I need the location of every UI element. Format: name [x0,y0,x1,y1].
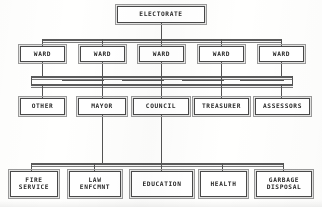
connector-assessors-in [281,84,282,98]
connector-fire-service-drop [31,163,32,171]
connector-mesh-cross-4 [240,80,284,81]
node-law-enforcement[interactable]: LAW ENFCMNT [69,171,121,197]
node-law-enforcement-label: LAW ENFCMNT [80,177,110,190]
connector-mesh-cross-1 [62,80,104,81]
node-mayor-label: MAYOR [91,103,113,110]
connector-mesh-tie-right [292,76,293,85]
connector-mesh-tie-left [31,76,32,85]
connector-ward-bus [42,39,282,41]
node-ward-1-label: WARD [34,51,51,58]
node-ward-2-label: WARD [94,51,111,58]
node-electorate[interactable]: ELECTORATE [117,6,205,23]
connector-health-drop [222,163,223,171]
node-assessors-label: ASSESSORS [263,103,302,110]
node-education-label: EDUCATION [143,181,182,188]
connector-council-in [161,84,162,98]
node-ward-5[interactable]: WARD [259,46,304,62]
org-chart-canvas: ELECTORATE WARD WARD WARD WARD WARD [0,0,322,207]
connector-ward-1-out [42,62,43,76]
connector-mesh-rail-upper [31,76,293,78]
node-other-label: OTHER [32,103,54,110]
node-ward-1[interactable]: WARD [20,46,65,62]
connector-mesh-rail-lower [31,84,293,86]
connector-mayor-drop [102,115,103,163]
node-ward-4-label: WARD [213,51,230,58]
connector-electorate-stem [161,23,162,39]
node-ward-4[interactable]: WARD [199,46,244,62]
connector-ward-5-out [281,62,282,76]
node-fire-service[interactable]: FIRE SERVICE [10,171,58,197]
connector-ward-4-drop [221,39,222,46]
connector-law-enforcement-drop [94,163,95,171]
connector-ward-3-out [161,62,162,76]
connector-ward-3-drop [161,39,162,46]
node-garbage-disposal-label: GARBAGE DISPOSAL [267,177,302,190]
connector-garbage-disposal-drop [283,163,284,171]
node-fire-service-label: FIRE SERVICE [19,177,49,190]
node-ward-3-label: WARD [153,51,170,58]
node-health[interactable]: HEALTH [200,171,247,197]
node-assessors[interactable]: ASSESSORS [255,98,310,115]
node-education[interactable]: EDUCATION [131,171,193,197]
connector-mayor-in [102,84,103,98]
connector-ward-5-drop [281,39,282,46]
node-garbage-disposal[interactable]: GARBAGE DISPOSAL [256,171,312,197]
node-mayor[interactable]: MAYOR [78,98,126,115]
connector-ward-2-out [102,62,103,76]
connector-education-drop [161,163,162,171]
node-ward-2[interactable]: WARD [80,46,125,62]
node-electorate-label: ELECTORATE [139,11,182,18]
node-treasurer[interactable]: TREASURER [194,98,249,115]
connector-treasurer-in [221,84,222,98]
connector-ward-4-out [221,62,222,76]
connector-ward-2-drop [102,39,103,46]
node-health-label: HEALTH [211,181,237,188]
node-other[interactable]: OTHER [20,98,65,115]
connector-mesh-cross-3 [182,80,224,81]
node-ward-3[interactable]: WARD [139,46,184,62]
node-council-label: COUNCIL [146,103,176,110]
connector-department-bus [31,163,283,165]
node-treasurer-label: TREASURER [202,103,241,110]
connector-mesh-cross-2 [122,80,164,81]
node-ward-5-label: WARD [273,51,290,58]
connector-other-in [42,84,43,98]
node-council[interactable]: COUNCIL [133,98,189,115]
connector-council-drop [161,115,162,163]
connector-ward-1-drop [42,39,43,46]
